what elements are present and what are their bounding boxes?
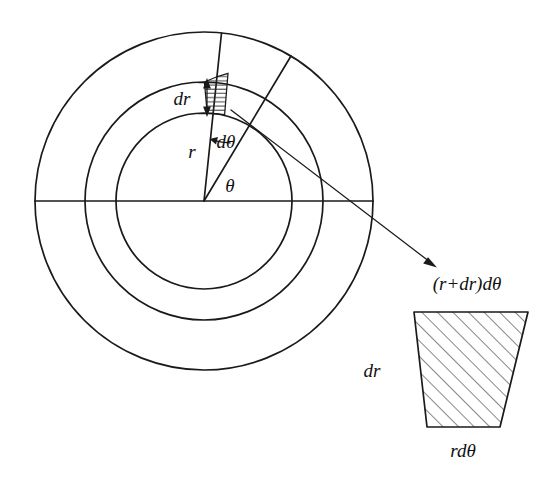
label-inner-arc: rdθ [450,440,476,461]
label-dr-trapezoid: dr [364,360,382,381]
enlarged-trapezoid [414,312,528,427]
callout-pointer-line [231,110,430,262]
label-r: r [188,141,196,162]
label-dr-inner: dr [174,88,192,109]
diagram-canvas: dr dθ r θ (r+dr)dθ dr rdθ [0,0,545,481]
trapezoid-hatch-fill [414,312,528,427]
label-d-theta: dθ [217,131,236,152]
callout-pointer-arrow [231,110,437,268]
label-outer-arc: (r+dr)dθ [433,273,502,295]
polar-area-element-figure: dr dθ r θ (r+dr)dθ dr rdθ [0,0,545,481]
label-theta: θ [225,175,234,196]
radial-lines-group [204,33,291,201]
